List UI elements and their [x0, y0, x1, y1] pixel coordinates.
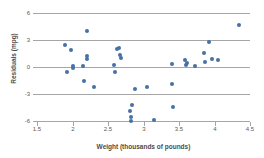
data-point [85, 57, 89, 61]
y-tick-label--6: -6 [8, 118, 30, 125]
x-tick-label-2.5: 2.5 [96, 126, 120, 133]
data-point [145, 85, 149, 89]
x-tick-label-1.5: 1.5 [25, 126, 49, 133]
x-tick-label-4.5: 4.5 [238, 126, 262, 133]
data-point [170, 62, 174, 66]
plot-area [37, 13, 250, 121]
data-point [171, 105, 175, 109]
x-axis-title: Weight (thousands of pounds) [37, 143, 250, 150]
data-point [193, 64, 197, 68]
data-point [71, 66, 75, 70]
data-point [65, 70, 69, 74]
data-point [170, 82, 174, 86]
gridline-y--3 [37, 94, 250, 95]
gridline-y-0 [37, 67, 250, 68]
data-point [185, 61, 189, 65]
data-point [210, 57, 214, 61]
y-tick-label--3: -3 [8, 91, 30, 98]
data-point [69, 48, 73, 52]
data-point [237, 23, 241, 27]
data-point [129, 119, 133, 123]
data-point [216, 58, 220, 62]
data-point [82, 79, 86, 83]
data-point [112, 63, 116, 67]
data-point [117, 46, 121, 50]
data-point [133, 87, 137, 91]
data-point [129, 115, 133, 119]
x-tick-label-4: 4 [203, 126, 227, 133]
x-tick-label-2: 2 [61, 126, 85, 133]
y-tick-label-0: 0 [8, 64, 30, 71]
x-tick-label-3.5: 3.5 [167, 126, 191, 133]
y-tick-label-6: 6 [8, 10, 30, 17]
gridline-y-3 [37, 40, 250, 41]
data-point [113, 70, 117, 74]
data-point [63, 43, 67, 47]
data-point [119, 56, 123, 60]
gridline-y-6 [37, 13, 250, 14]
data-point [207, 40, 211, 44]
data-point [85, 29, 89, 33]
x-tick-label-3: 3 [132, 126, 156, 133]
data-point [203, 60, 207, 64]
residual-scatter-chart: Residuals (mpg) 630-3-6 1.522.533.544.5 … [0, 0, 264, 158]
data-point [128, 109, 132, 113]
y-tick-label-3: 3 [8, 37, 30, 44]
data-point [130, 103, 134, 107]
y-axis-title: Residuals (mpg) [10, 24, 17, 94]
data-point [202, 51, 206, 55]
data-point [92, 85, 96, 89]
